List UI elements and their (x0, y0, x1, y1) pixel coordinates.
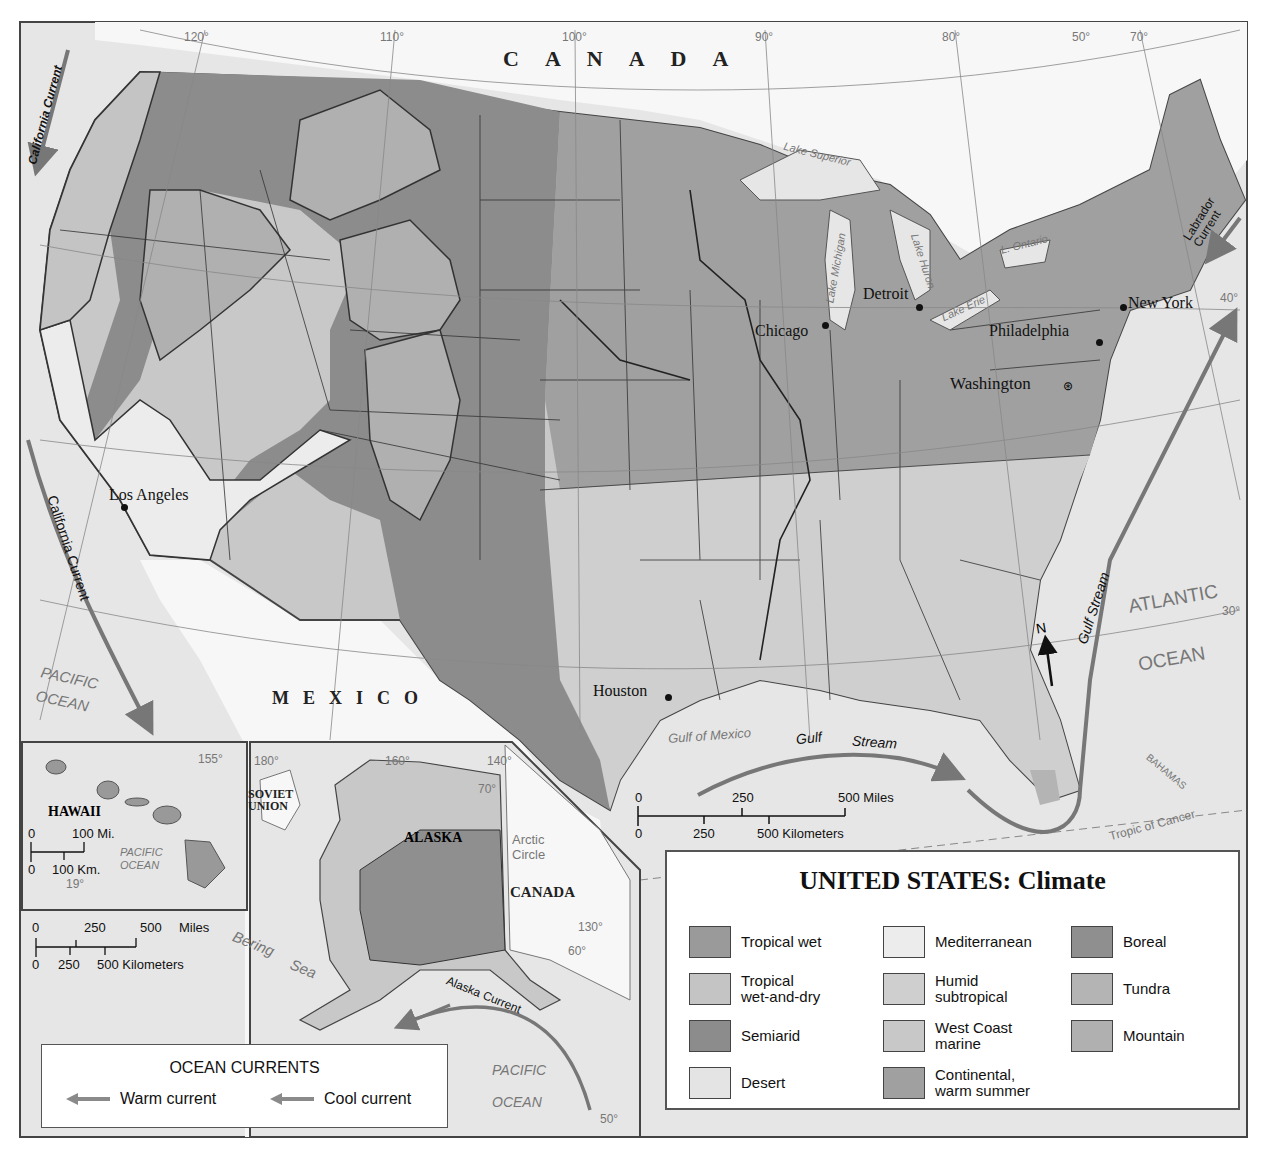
ak-scale-miles-250: 250 (84, 920, 106, 935)
cool-current-label: Cool current (324, 1090, 411, 1108)
coord-50-top: 50° (1072, 30, 1090, 44)
swatch-tundra (1071, 973, 1113, 1005)
ocean-currents-title: OCEAN CURRENTS (42, 1059, 447, 1077)
city-label-detroit: Detroit (863, 285, 908, 303)
swatch-tropical-wet (689, 926, 731, 958)
scale-km-500: 500 Kilometers (757, 826, 844, 841)
legend-item-humid-subtropical: Humid subtropical (883, 969, 1008, 1009)
warm-current-label: Warm current (120, 1090, 216, 1108)
label-arctic-circle: Arctic Circle (512, 832, 545, 862)
scale-miles-0: 0 (635, 790, 642, 805)
legend-item-west-coast-marine: West Coast marine (883, 1016, 1012, 1056)
ak-scale-km-0: 0 (32, 957, 39, 972)
swatch-tropical-wet-dry (689, 973, 731, 1005)
city-label-washington: Washington (950, 374, 1031, 394)
coord-19: 19° (66, 877, 84, 891)
city-dot-chicago (822, 322, 829, 329)
coord-60: 60° (568, 944, 586, 958)
coord-40: 40° (1220, 291, 1238, 305)
city-dot-houston (665, 694, 672, 701)
cool-current-arrow-icon (270, 1092, 314, 1106)
city-dot-new-york (1120, 304, 1127, 311)
legend-item-desert: Desert (689, 1063, 785, 1103)
coord-30: 30° (1222, 604, 1240, 618)
legend-item-boreal: Boreal (1071, 922, 1166, 962)
scale-km-250: 250 (693, 826, 715, 841)
city-dot-los-angeles (121, 504, 128, 511)
swatch-semiarid (689, 1020, 731, 1052)
warm-current-arrow-icon (66, 1092, 110, 1106)
coord-70: 70° (1130, 30, 1148, 44)
capital-star-icon: ⊛ (1063, 379, 1073, 393)
coord-180: 180° (254, 754, 279, 768)
climate-legend: UNITED STATES: Climate Tropical wet Trop… (665, 850, 1240, 1110)
country-label-mexico: MEXICO (272, 688, 432, 709)
legend-item-tundra: Tundra (1071, 969, 1170, 1009)
ak-scale-km-500: 500 Kilometers (97, 957, 184, 972)
swatch-mountain (1071, 1020, 1113, 1052)
legend-item-tropical-wet: Tropical wet (689, 922, 821, 962)
city-label-philadelphia: Philadelphia (989, 322, 1069, 340)
label-gulf-stream-2: Stream (851, 732, 897, 751)
coord-80: 80° (942, 30, 960, 44)
coord-120: 120° (184, 30, 209, 44)
climate-map: CANADA MEXICO CANADA SOVIET UNION HAWAII… (0, 0, 1266, 1153)
country-label-soviet-union: SOVIET UNION (248, 788, 293, 812)
swatch-humid-subtropical (883, 973, 925, 1005)
swatch-mediterranean (883, 926, 925, 958)
legend-item-tropical-wet-dry: Tropical wet-and-dry (689, 969, 820, 1009)
coord-70-ak: 70° (478, 782, 496, 796)
hi-scale-miles-100: 100 Mi. (72, 826, 115, 841)
swatch-continental-warm-summer (883, 1067, 925, 1099)
label-pacific-alaska-1: PACIFIC (492, 1062, 546, 1078)
swatch-desert (689, 1067, 731, 1099)
coord-140: 140° (487, 754, 512, 768)
label-pacific-ocean-hawaii: PACIFIC OCEAN (120, 846, 163, 872)
coord-90: 90° (755, 30, 773, 44)
scale-km-0: 0 (635, 826, 642, 841)
swatch-boreal (1071, 926, 1113, 958)
hi-scale-km-100: 100 Km. (52, 862, 100, 877)
coord-155: 155° (198, 752, 223, 766)
legend-warm-current: Warm current (66, 1090, 216, 1108)
coord-160: 160° (385, 754, 410, 768)
ak-scale-miles-0: 0 (32, 920, 39, 935)
label-gulf-stream-1: Gulf (795, 729, 822, 748)
coord-110: 110° (380, 30, 404, 44)
legend-item-mountain: Mountain (1071, 1016, 1185, 1056)
city-label-los-angeles: Los Angeles (109, 486, 189, 504)
legend-title: UNITED STATES: Climate (667, 866, 1238, 896)
hi-scale-miles-0: 0 (28, 826, 35, 841)
legend-item-continental-warm-summer: Continental, warm summer (883, 1063, 1030, 1103)
country-label-canada-inset: CANADA (510, 884, 575, 901)
coord-50-ak: 50° (600, 1112, 618, 1126)
ak-scale-miles-500: 500 (140, 920, 162, 935)
city-label-houston: Houston (593, 682, 647, 700)
hi-scale-km-0: 0 (28, 862, 35, 877)
swatch-west-coast-marine (883, 1020, 925, 1052)
scale-miles-250: 250 (732, 790, 754, 805)
state-label-alaska: ALASKA (404, 830, 462, 846)
scale-miles-500: 500 Miles (838, 790, 894, 805)
city-dot-philadelphia (1096, 339, 1103, 346)
country-label-canada: CANADA (503, 46, 754, 72)
city-dot-detroit (916, 304, 923, 311)
city-label-new-york: New York (1128, 294, 1193, 312)
state-label-hawaii: HAWAII (48, 804, 101, 820)
ak-scale-km-250: 250 (58, 957, 80, 972)
legend-item-mediterranean: Mediterranean (883, 922, 1032, 962)
legend-cool-current: Cool current (270, 1090, 411, 1108)
label-pacific-alaska-2: OCEAN (492, 1094, 542, 1110)
legend-item-semiarid: Semiarid (689, 1016, 800, 1056)
ocean-currents-legend: OCEAN CURRENTS Warm current Cool current (41, 1044, 448, 1128)
city-label-chicago: Chicago (755, 322, 808, 340)
coord-100: 100° (562, 30, 587, 44)
ak-scale-miles-label: Miles (179, 920, 209, 935)
coord-130: 130° (578, 920, 603, 934)
